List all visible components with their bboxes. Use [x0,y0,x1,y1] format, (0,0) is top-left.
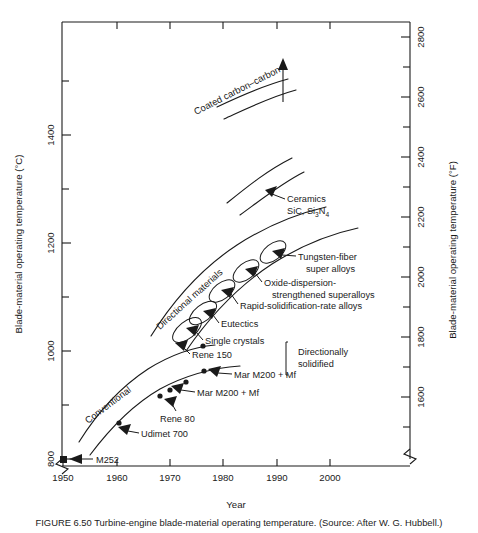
mar-m200-upper-arrowhead-icon [208,366,221,377]
label-directionally-solidified-line1: Directionally [298,347,348,357]
annotation-m252: M252 [69,454,119,465]
data-point-2 [157,393,162,398]
y-axis-left-ticks [62,81,71,459]
label-oxide-dispersion-line2: strengthened superalloys [272,290,375,300]
y-tick-label-1200: 1200 [45,232,56,253]
label-conventional: Conventional [83,384,133,426]
x-tick-label-2000: 2000 [319,472,340,483]
scatter-points [60,343,207,463]
y-tick-label-1000: 1000 [45,340,56,361]
x-tick-labels: 1950 1960 1970 1980 1990 2000 [52,472,340,483]
x-tick-label-1970: 1970 [159,472,180,483]
label-rene-150: Rene 150 [192,350,232,360]
y-axis-title-left: Blade-material operating temperature (°C… [13,155,24,334]
x-tick-label-1980: 1980 [212,472,233,483]
figure-caption: FIGURE 6.50 Turbine-engine blade-materia… [0,516,478,533]
single-crystals-arrowhead-icon [186,325,199,336]
chart-svg: 1950 1960 1970 1980 1990 2000 Year 1400 … [0,0,478,533]
x-tick-label-1990: 1990 [266,472,287,483]
m252-arrowhead-icon [69,454,82,464]
figure-container: 1950 1960 1970 1980 1990 2000 Year 1400 … [0,0,478,533]
data-point-5 [201,368,206,373]
label-oxide-dispersion-line1: Oxide-dispersion- [264,278,336,288]
label-mar-m200-lower: Mar M200 + Mf [197,388,259,398]
x-axis-ticks [63,22,330,466]
annotation-udimet-700: Udimet 700 [118,424,188,439]
y-tick-label-2600: 2600 [415,86,426,107]
ceramics-formula-sub2: 4 [325,211,329,218]
y-axis-right-ticks [401,37,410,427]
y-tick-labels-left: 1400 1200 1000 800 [45,124,56,467]
label-m252: M252 [96,455,119,465]
label-tungsten-fiber-line1: Tungsten-fiber [298,252,357,262]
data-point-3 [167,387,172,392]
y-tick-label-2000: 2000 [415,266,426,287]
label-single-crystals: Single crystals [205,336,265,346]
label-udimet-700: Udimet 700 [141,429,188,439]
annotation-mar-m200-lower: Mar M200 + Mf [171,383,259,398]
x-tick-label-1960: 1960 [106,472,127,483]
label-rene-80: Rene 80 [160,414,195,424]
y-tick-label-2800: 2800 [415,26,426,47]
annotation-tungsten-fiber: Tungsten-fiber super alloys [272,248,357,274]
label-ceramics-line1: Ceramics [287,194,326,204]
label-coated-carbon-carbon: Coated carbon–carbon [192,64,282,117]
label-directionally-solidified-line2: solidified [298,359,334,369]
y-tick-label-1600: 1600 [415,386,426,407]
label-eutectics: Eutectics [221,319,259,329]
band-coated-carbon-carbon: Coated carbon–carbon [192,58,296,119]
y-axis-title-right: Blade-material operating temperature (°F… [447,161,458,339]
rene80-arrowhead-icon [164,396,177,407]
data-point-1 [116,420,121,425]
y-tick-labels-right: 2800 2600 2400 2200 2000 1800 1600 [415,26,426,407]
x-axis-title: Year [226,499,246,510]
y-tick-label-2200: 2200 [415,206,426,227]
y-tick-label-2400: 2400 [415,146,426,167]
annotation-rene-80: Rene 80 [160,396,195,424]
data-point-4 [183,379,188,384]
label-rapid-solidification: Rapid-solidification-rate alloys [240,301,362,311]
udimet-arrowhead-icon [118,424,131,435]
x-tick-label-1950: 1950 [52,472,73,483]
label-tungsten-fiber-line2: super alloys [306,264,355,274]
y-tick-label-1800: 1800 [415,326,426,347]
y-tick-label-1400: 1400 [45,124,56,145]
band-ceramics: Ceramics SiC, Si3N4 [227,158,329,218]
data-point-m252 [60,456,67,463]
y-tick-label-800: 800 [45,451,56,467]
mar-m200-lower-arrowhead-icon [171,383,184,394]
